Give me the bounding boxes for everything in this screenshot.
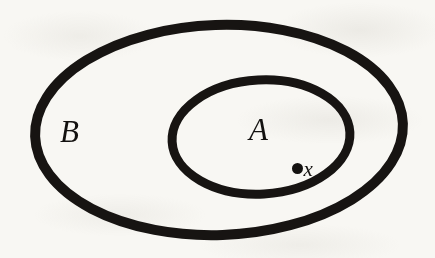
element-x-marker: x	[292, 158, 313, 179]
set-b-label: B	[60, 116, 79, 147]
set-a-label: A	[249, 114, 268, 145]
figure-canvas: B A x	[0, 0, 435, 258]
element-point-dot	[292, 163, 303, 174]
element-x-label: x	[304, 159, 313, 180]
